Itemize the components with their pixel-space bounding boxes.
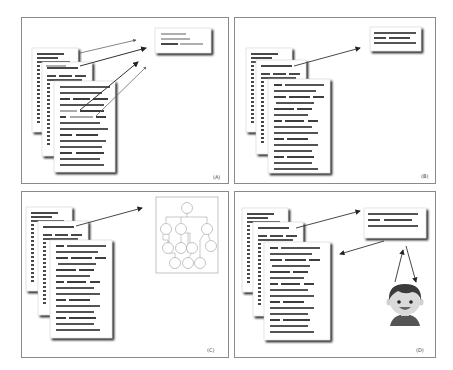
panel-c-documents <box>26 207 112 338</box>
panel-b-summary-box <box>370 27 421 51</box>
figure-canvas: (A) (B) <box>0 0 453 370</box>
panel-a-label: (A) <box>213 174 220 180</box>
panel-d-documents <box>242 208 330 340</box>
panel-b-label: (B) <box>421 173 428 179</box>
avatar-icon <box>387 284 424 326</box>
panel-b-documents <box>246 48 330 173</box>
panel-c-arrow <box>76 208 142 226</box>
panel-d-label: (D) <box>416 347 424 353</box>
panel-c-label: (C) <box>207 347 214 353</box>
panel-a-summary-box <box>155 28 211 53</box>
panel-c-graph <box>156 197 218 273</box>
panel-b-arrow <box>294 48 360 66</box>
panel-d-summary-box <box>364 208 426 238</box>
